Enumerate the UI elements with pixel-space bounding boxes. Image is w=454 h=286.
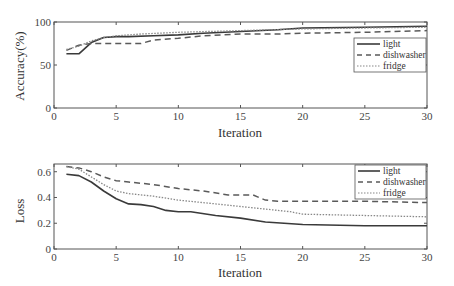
accuracy-chart: 051015202530 050100 Iteration Accuracy(%… [12, 16, 433, 140]
x-tick-label: 20 [297, 110, 309, 122]
y-tick-label: 50 [40, 59, 52, 71]
loss-y-axis-label: Loss [12, 199, 27, 224]
x-tick-label: 10 [173, 251, 185, 263]
y-tick-label: 0.6 [37, 166, 51, 178]
figure: 051015202530 050100 Iteration Accuracy(%… [0, 0, 454, 286]
x-tick-label: 5 [113, 251, 119, 263]
accuracy-y-axis-label: Accuracy(%) [12, 31, 27, 100]
legend-fridge-label: fridge [383, 188, 406, 198]
accuracy-x-axis-label: Iteration [218, 125, 263, 140]
legend-dishwasher-label: dishwasher [383, 177, 427, 187]
accuracy-legend: light dishwasher fridge [354, 38, 427, 72]
legend-dishwasher-label: dishwasher [383, 50, 427, 60]
legend-light-label: light [383, 166, 401, 176]
legend-fridge-label: fridge [383, 61, 406, 71]
x-tick-label: 5 [113, 110, 119, 122]
y-tick-label: 0.4 [37, 191, 51, 203]
x-tick-label: 15 [235, 251, 247, 263]
y-tick-label: 0.2 [37, 217, 51, 229]
loss-legend: light dishwasher fridge [355, 165, 427, 199]
y-tick-label: 0 [46, 102, 52, 114]
x-tick-label: 25 [359, 110, 371, 122]
x-tick-label: 15 [235, 110, 247, 122]
x-tick-label: 0 [51, 251, 57, 263]
x-tick-label: 25 [359, 251, 371, 263]
x-tick-label: 0 [51, 110, 57, 122]
y-tick-label: 0 [46, 243, 52, 255]
legend-light-label: light [383, 39, 401, 49]
x-tick-label: 30 [422, 110, 434, 122]
y-tick-label: 100 [35, 16, 52, 28]
loss-chart: 051015202530 00.20.40.6 Iteration Loss l… [12, 164, 433, 280]
x-tick-label: 30 [422, 251, 434, 263]
x-tick-label: 10 [173, 110, 185, 122]
x-tick-label: 20 [297, 251, 309, 263]
loss-x-axis-label: Iteration [218, 265, 263, 280]
